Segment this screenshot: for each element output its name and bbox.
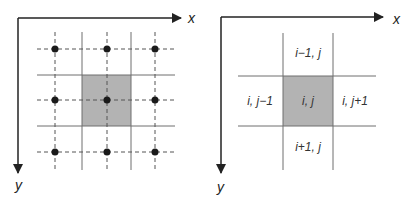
node xyxy=(104,149,111,156)
cell-label-right: i, j+1 xyxy=(342,94,368,108)
node xyxy=(152,46,159,53)
y-axis-label: y xyxy=(14,177,23,193)
x-axis-label: x xyxy=(392,11,401,27)
x-axis-label: x xyxy=(187,10,196,26)
cell-label-center: i, j xyxy=(302,94,314,108)
node xyxy=(52,46,59,53)
cell-label-bottom: i+1, j xyxy=(295,140,321,154)
left-panel: x y xyxy=(14,10,196,193)
cell-label-top: i−1, j xyxy=(295,46,321,60)
diagram-canvas: x y x y i−1, j i, j−1 i, j i, j+1 i+1, j xyxy=(0,0,415,203)
right-panel: x y i−1, j i, j−1 i, j i, j+1 i+1, j xyxy=(216,11,401,195)
cell-label-left: i, j−1 xyxy=(247,94,273,108)
node xyxy=(104,46,111,53)
node xyxy=(52,149,59,156)
node xyxy=(152,97,159,104)
node xyxy=(52,97,59,104)
node xyxy=(152,149,159,156)
y-axis-label: y xyxy=(216,179,225,195)
node-center xyxy=(104,97,111,104)
